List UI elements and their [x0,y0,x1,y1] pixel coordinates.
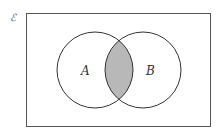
universal-set-symbol: ℰ [10,12,17,23]
set-b-label: B [145,64,155,78]
venn-diagram: ℰ A B [0,0,222,128]
set-a-label: A [80,64,90,78]
